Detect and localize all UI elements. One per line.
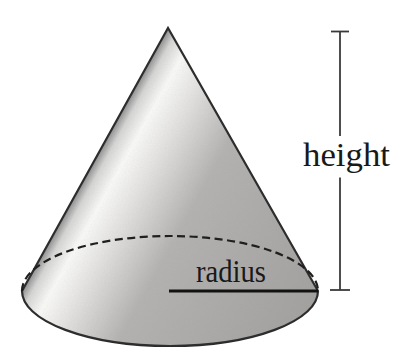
radius-label: radius (196, 253, 266, 289)
height-label: height (303, 137, 390, 173)
cone-diagram: radius height (0, 0, 399, 359)
cone-figure: radius height (0, 0, 399, 359)
